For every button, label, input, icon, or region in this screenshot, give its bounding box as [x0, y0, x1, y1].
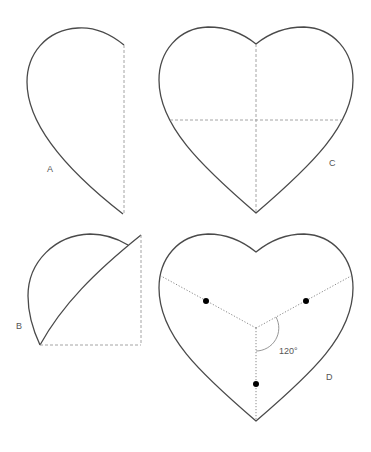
panel-d-label: D [326, 372, 333, 382]
panel-a-label: A [47, 164, 53, 174]
panel-a-outline [27, 28, 124, 214]
panel-b-diagonal-fold [40, 235, 141, 345]
panel-b: B [16, 234, 141, 345]
panel-d: 120° D [159, 234, 353, 421]
panel-c-label: C [329, 158, 336, 168]
panel-d-dot-left [203, 298, 209, 304]
panel-d-dot-bottom [253, 381, 259, 387]
panel-c: C [159, 27, 353, 213]
heart-folding-diagram: A B C 120° D [0, 0, 371, 452]
panel-d-angle-label: 120° [279, 346, 298, 356]
panel-b-label: B [16, 321, 22, 331]
panel-b-outline [28, 234, 128, 345]
panel-d-dot-right [303, 298, 309, 304]
panel-a: A [27, 28, 124, 214]
